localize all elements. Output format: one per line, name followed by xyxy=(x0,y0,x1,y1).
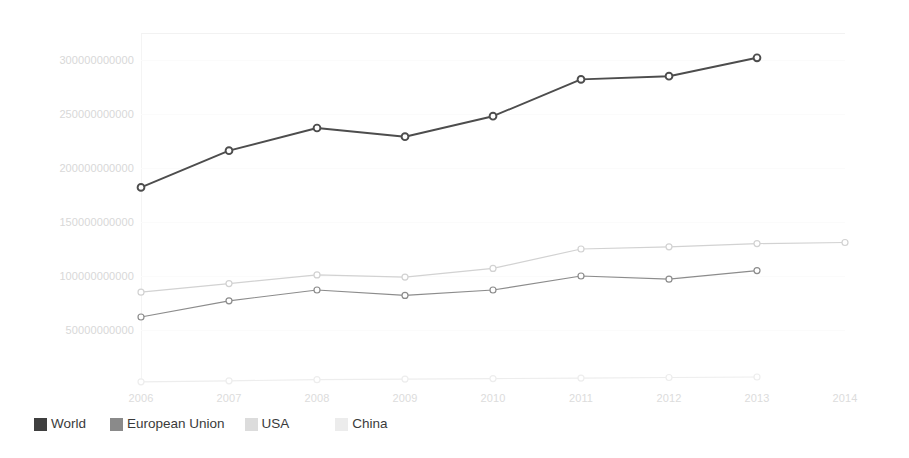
y-axis-tick-label: 100000000000 xyxy=(59,270,134,282)
x-axis-tick-label: 2011 xyxy=(569,392,593,404)
legend-label: China xyxy=(352,417,387,431)
gridline xyxy=(141,60,845,61)
legend-label: USA xyxy=(262,417,290,431)
x-axis-tick-label: 2014 xyxy=(833,392,858,404)
y-axis: 5000000000010000000000015000000000020000… xyxy=(0,0,134,458)
y-axis-tick-label: 50000000000 xyxy=(66,324,134,336)
legend-swatch-icon xyxy=(245,418,258,431)
chart-legend: WorldEuropean UnionUSAChina xyxy=(34,417,388,431)
legend-swatch-icon xyxy=(34,418,47,431)
gridline xyxy=(141,114,845,115)
x-axis-tick-label: 2013 xyxy=(745,392,770,404)
legend-item-china[interactable]: China xyxy=(335,417,387,431)
y-axis-tick-label: 300000000000 xyxy=(59,54,134,66)
y-axis-tick-label: 150000000000 xyxy=(59,216,134,228)
gridline xyxy=(141,276,845,277)
x-axis-tick-label: 2010 xyxy=(481,392,506,404)
legend-item-world[interactable]: World xyxy=(34,417,86,431)
x-axis-tick-label: 2009 xyxy=(393,392,418,404)
legend-item-usa[interactable]: USA xyxy=(245,417,290,431)
gridline xyxy=(141,330,845,331)
x-axis-tick-label: 2007 xyxy=(217,392,242,404)
y-axis-tick-label: 250000000000 xyxy=(59,108,134,120)
legend-item-european-union[interactable]: European Union xyxy=(110,417,225,431)
x-axis-tick-label: 2006 xyxy=(129,392,154,404)
line-chart: 5000000000010000000000015000000000020000… xyxy=(0,0,909,458)
legend-swatch-icon xyxy=(110,418,123,431)
x-axis-tick-label: 2012 xyxy=(657,392,682,404)
legend-swatch-icon xyxy=(335,418,348,431)
y-axis-tick-label: 200000000000 xyxy=(59,162,134,174)
legend-label: World xyxy=(51,417,86,431)
gridline xyxy=(141,222,845,223)
gridline xyxy=(141,168,845,169)
legend-label: European Union xyxy=(127,417,225,431)
x-axis-tick-label: 2008 xyxy=(305,392,330,404)
plot-area xyxy=(141,33,845,384)
